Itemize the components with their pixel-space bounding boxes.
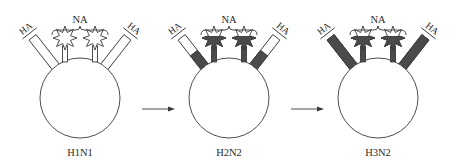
ha-label-group: HA bbox=[123, 19, 144, 39]
na-spike-2 bbox=[83, 26, 107, 62]
na-label: NA bbox=[72, 14, 88, 25]
virus-name-label: H2N2 bbox=[216, 147, 242, 158]
antigenic-shift-diagram: HAHANAH1N1HAHANAH2N2HAHANAH3N2 bbox=[0, 0, 458, 168]
ha-label-group: HA bbox=[272, 19, 293, 39]
virus-h2n2: HAHANAH2N2 bbox=[165, 14, 294, 158]
ha-label-group: HA bbox=[16, 19, 37, 39]
ha-label: HA bbox=[275, 20, 292, 36]
ha-label: HA bbox=[315, 20, 332, 36]
ha-label-group: HA bbox=[421, 19, 442, 39]
virus-h1n1: HAHANAH1N1 bbox=[16, 14, 145, 158]
na-spike-2 bbox=[381, 26, 405, 62]
ha-label-group: HA bbox=[314, 19, 335, 39]
virus-name-label: H3N2 bbox=[365, 147, 391, 158]
ha-label: HA bbox=[126, 20, 143, 36]
arrow-right-icon bbox=[291, 107, 324, 112]
na-spike-1 bbox=[202, 26, 226, 62]
na-spike-1 bbox=[53, 26, 77, 62]
virus-envelope bbox=[189, 58, 269, 138]
virus-h3n2: HAHANAH3N2 bbox=[314, 14, 443, 158]
ha-label: HA bbox=[166, 20, 183, 36]
na-spike-2 bbox=[232, 26, 256, 62]
virus-envelope bbox=[40, 58, 120, 138]
ha-label-group: HA bbox=[165, 19, 186, 39]
virus-envelope bbox=[338, 58, 418, 138]
ha-label: HA bbox=[424, 20, 441, 36]
arrow-right-icon bbox=[142, 107, 175, 112]
na-label: NA bbox=[221, 14, 237, 25]
ha-label: HA bbox=[17, 20, 34, 36]
na-spike-1 bbox=[351, 26, 375, 62]
na-label: NA bbox=[370, 14, 386, 25]
virus-name-label: H1N1 bbox=[67, 147, 93, 158]
